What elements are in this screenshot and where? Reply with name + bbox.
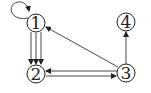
node-4-label: 4 (121, 12, 132, 32)
graph-diagram: 1 2 3 4 (0, 0, 151, 93)
node-3: 3 (117, 63, 135, 83)
node-2-label: 2 (31, 64, 42, 84)
node-2: 2 (27, 64, 45, 84)
node-1-label: 1 (31, 13, 42, 33)
edge-1-1-self-loop (11, 2, 29, 19)
node-1: 1 (27, 13, 45, 33)
edge-3-1 (46, 27, 118, 67)
node-4: 4 (117, 12, 135, 32)
node-3-label: 3 (121, 63, 132, 83)
